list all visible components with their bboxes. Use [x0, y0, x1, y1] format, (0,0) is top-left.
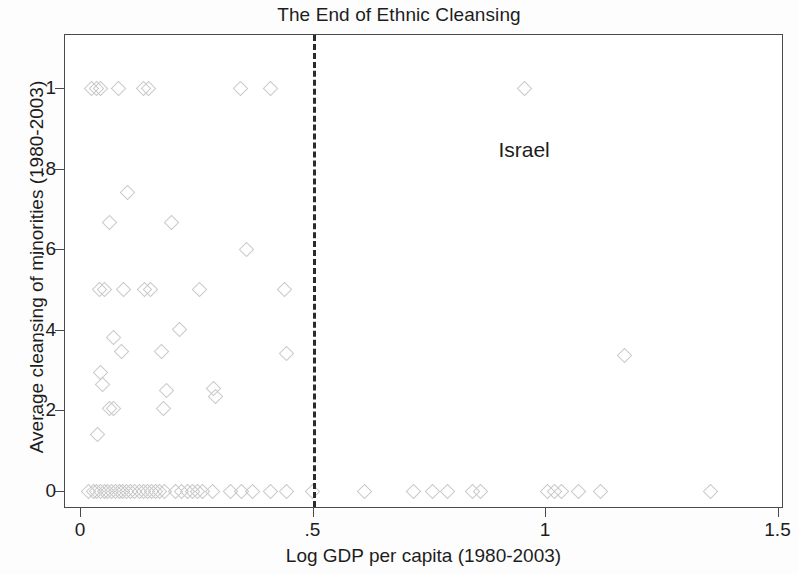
x-axis-tick-label: 0	[75, 519, 86, 541]
y-axis-tick	[55, 88, 64, 89]
threshold-reference-line	[313, 35, 316, 507]
y-axis-tick-label: .8	[40, 158, 56, 180]
x-axis-tick	[313, 508, 314, 517]
chart-title: The End of Ethnic Cleansing	[0, 4, 798, 26]
y-axis-tick-label: 0	[45, 480, 56, 502]
x-axis-tick-label: 1	[540, 519, 551, 541]
x-axis-tick	[80, 508, 81, 517]
plot-frame	[64, 34, 783, 508]
x-axis-tick	[545, 508, 546, 517]
y-axis-tick-label: 1	[45, 77, 56, 99]
y-axis-tick	[55, 410, 64, 411]
y-axis-label: Average cleansing of minorities (1980-20…	[26, 30, 48, 504]
y-axis-tick-label: .2	[40, 399, 56, 421]
y-axis-tick	[55, 330, 64, 331]
x-axis-label: Log GDP per capita (1980-2003)	[64, 545, 783, 567]
x-axis-tick-label: 1.5	[764, 519, 790, 541]
point-annotation-label: Israel	[498, 138, 549, 162]
y-axis-tick	[55, 169, 64, 170]
x-axis-tick	[778, 508, 779, 517]
y-axis-tick-label: .6	[40, 238, 56, 260]
y-axis-tick	[55, 249, 64, 250]
x-axis-tick-label: .5	[305, 519, 321, 541]
y-axis-tick	[55, 491, 64, 492]
chart-page: The End of Ethnic Cleansing Log GDP per …	[0, 0, 798, 574]
y-axis-tick-label: .4	[40, 319, 56, 341]
